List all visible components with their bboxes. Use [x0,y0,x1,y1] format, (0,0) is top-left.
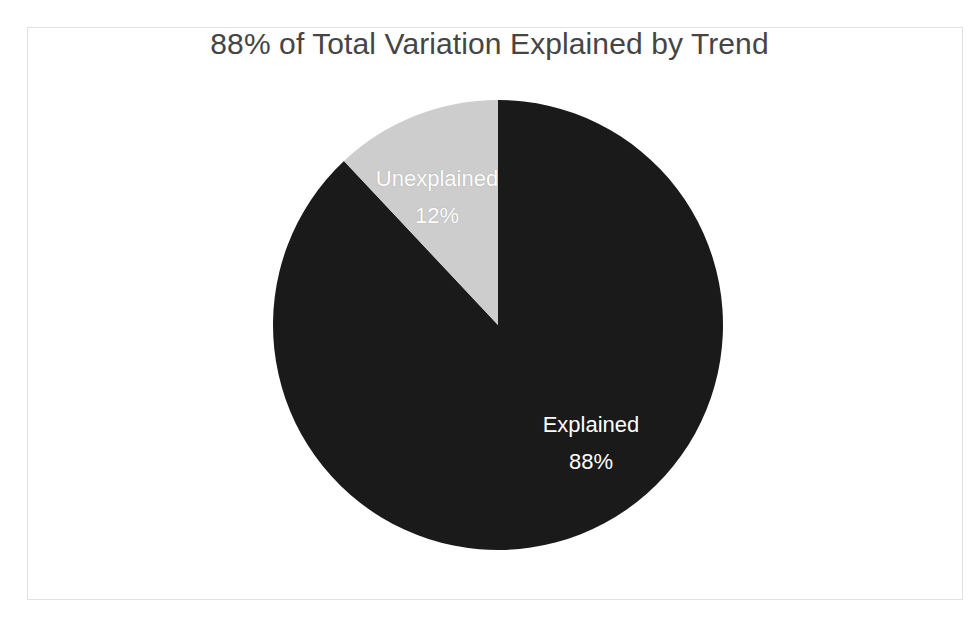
pie-label-unexplained-value: 12% [297,203,577,228]
pie-label-unexplained: Unexplained 12% [297,166,577,228]
pie-chart-svg [0,0,979,623]
pie-label-explained: Explained 88% [470,412,712,474]
pie-label-explained-name: Explained [543,412,640,437]
pie-chart: Unexplained 12% Explained 88% [0,0,979,623]
pie-label-unexplained-name: Unexplained [376,166,498,191]
chart-canvas: 88% of Total Variation Explained by Tren… [0,0,979,623]
pie-label-explained-value: 88% [470,449,712,474]
